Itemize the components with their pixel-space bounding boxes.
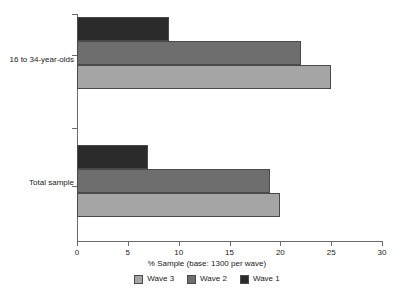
x-axis-tick-label-15: 15: [225, 248, 234, 258]
x-axis-tick-label-0: 0: [75, 248, 79, 258]
legend-label: Wave 2: [200, 274, 227, 284]
x-axis-tick-20: [280, 241, 281, 246]
bar-wave-1-group-0: [77, 17, 169, 41]
bar-wave-1-group-1: [77, 145, 148, 169]
legend-swatch-icon: [187, 275, 196, 284]
bar-wave-2-group-0: [77, 41, 301, 65]
x-axis-tick-label-25: 25: [327, 248, 336, 258]
bar-chart: 16 to 34-year-olds Total sample 05101520…: [0, 0, 414, 295]
chart-legend: Wave 3Wave 2Wave 1: [0, 274, 414, 284]
legend-item-wave-1[interactable]: Wave 1: [240, 274, 280, 284]
x-axis-tick-label-30: 30: [378, 248, 387, 258]
legend-label: Wave 3: [147, 274, 174, 284]
legend-item-wave-2[interactable]: Wave 2: [187, 274, 227, 284]
x-axis-tick-5: [128, 241, 129, 246]
x-axis-tick-15: [230, 241, 231, 246]
x-axis-tick-25: [331, 241, 332, 246]
x-axis-tick-10: [179, 241, 180, 246]
legend-label: Wave 1: [253, 274, 280, 284]
x-axis-tick-30: [382, 241, 383, 246]
legend-swatch-icon: [134, 275, 143, 284]
legend-item-wave-3[interactable]: Wave 3: [134, 274, 174, 284]
bar-wave-3-group-0: [77, 65, 331, 89]
x-axis-tick-0: [77, 241, 78, 246]
plot-area: [77, 14, 382, 241]
x-axis-tick-label-10: 10: [174, 248, 183, 258]
x-axis-title: % Sample (base: 1300 per wave): [0, 259, 414, 269]
category-label-text: Total sample: [2, 178, 74, 188]
category-label-text: 16 to 34-year-olds: [2, 55, 74, 65]
bar-wave-2-group-1: [77, 169, 270, 193]
x-axis-tick-label-20: 20: [276, 248, 285, 258]
x-axis-tick-label-5: 5: [126, 248, 130, 258]
bar-wave-3-group-1: [77, 193, 280, 217]
legend-swatch-icon: [240, 275, 249, 284]
